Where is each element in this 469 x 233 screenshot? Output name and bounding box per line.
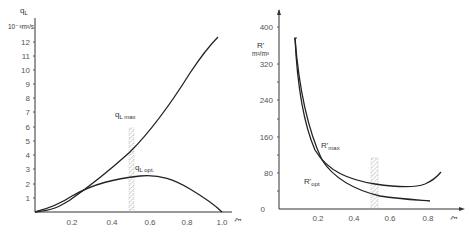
left-x-ticks: 0.2 0.4 0.6 0.8 1.0: [66, 218, 228, 227]
right-y-axis-arrow: [277, 9, 281, 15]
svg-text:6: 6: [26, 123, 31, 132]
svg-text:7: 7: [26, 108, 31, 117]
right-x-ticks: 0.2 0.4 0.6 0.8: [312, 214, 434, 223]
left-curve-qL-max: [35, 37, 218, 212]
svg-text:0: 0: [261, 205, 266, 214]
svg-text:320: 320: [260, 60, 274, 69]
svg-text:0.8: 0.8: [422, 214, 434, 223]
svg-text:10: 10: [21, 66, 30, 75]
svg-text:0.6: 0.6: [144, 218, 156, 227]
right-x-axis-arrow: [459, 207, 465, 211]
right-x-label: ξ: [450, 216, 459, 220]
right-chart: R' m²/m³ 0 80 160 240 320 400 0.2 0.4 0.…: [252, 9, 465, 223]
right-label-R-max: R'max: [321, 141, 340, 151]
left-label-qL-max: qL max: [115, 110, 136, 120]
right-curve-R-max: [295, 38, 441, 187]
svg-text:5: 5: [26, 137, 31, 146]
svg-text:0.4: 0.4: [106, 218, 118, 227]
svg-text:1: 1: [26, 194, 31, 203]
svg-text:0.2: 0.2: [66, 218, 78, 227]
svg-text:0.8: 0.8: [181, 218, 193, 227]
right-label-R-opt: R'opt: [304, 177, 320, 187]
right-curve-R-opt: [295, 38, 430, 201]
svg-text:8: 8: [26, 94, 31, 103]
right-y-label: R': [257, 41, 265, 50]
svg-text:1.0: 1.0: [216, 218, 228, 227]
left-optimum-band: [129, 128, 134, 212]
svg-text:240: 240: [260, 96, 274, 105]
svg-text:2: 2: [26, 180, 31, 189]
left-curve-qL-opt: [35, 176, 222, 212]
left-chart: qL 10⁻³m³/s 1 2 3 4 5 6 7 8 9 10 11 12 0…: [8, 6, 243, 227]
left-x-label: ξ: [234, 218, 243, 222]
svg-text:11: 11: [22, 52, 31, 61]
svg-text:0.6: 0.6: [384, 214, 396, 223]
svg-text:0.4: 0.4: [348, 214, 360, 223]
svg-text:400: 400: [260, 23, 274, 32]
svg-text:4: 4: [26, 151, 31, 160]
right-y-unit: m²/m³: [252, 50, 270, 57]
svg-text:80: 80: [264, 169, 273, 178]
left-y-label: qL: [20, 6, 28, 16]
left-label-qL-opt: qL opt.: [135, 163, 155, 173]
left-y-unit: 10⁻³m³/s: [8, 23, 35, 30]
svg-text:12: 12: [21, 38, 30, 47]
left-y-ticks: 1 2 3 4 5 6 7 8 9 10 11 12: [21, 38, 35, 203]
svg-text:9: 9: [26, 80, 31, 89]
figure: qL 10⁻³m³/s 1 2 3 4 5 6 7 8 9 10 11 12 0…: [0, 0, 469, 233]
svg-text:0.2: 0.2: [312, 214, 324, 223]
svg-text:3: 3: [26, 165, 31, 174]
svg-text:160: 160: [260, 133, 274, 142]
